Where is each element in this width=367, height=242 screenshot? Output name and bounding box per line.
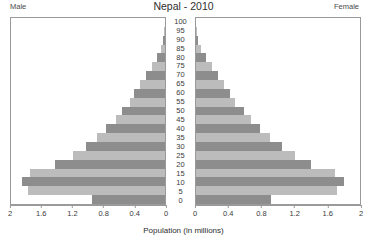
- bar-row: [11, 177, 165, 186]
- bar-row: [11, 151, 165, 160]
- bar-row: [196, 115, 360, 124]
- tick-mark: [194, 205, 195, 208]
- female-bar-rows: [196, 18, 360, 204]
- bar-row: [11, 133, 165, 142]
- bar-row: [11, 124, 165, 133]
- female-bar-age-20: [196, 160, 311, 169]
- bar-row: [196, 107, 360, 116]
- bar-row: [196, 71, 360, 80]
- female-bar-age-0: [196, 195, 271, 204]
- bar-row: [11, 18, 165, 27]
- male-x-tick-0.8: 0.8: [98, 205, 108, 218]
- female-bar-age-40: [196, 124, 260, 133]
- male-bar-age-15: [30, 169, 165, 178]
- male-axis-rule: [10, 205, 166, 206]
- bar-row: [196, 80, 360, 89]
- female-bar-age-80: [196, 53, 206, 62]
- male-plot-panel: [10, 17, 166, 205]
- female-x-tick-0.8: 0.8: [256, 205, 266, 218]
- age-tick-45: 45: [176, 115, 184, 124]
- tick-mark: [9, 205, 10, 208]
- bar-row: [11, 186, 165, 195]
- age-tick-85: 85: [176, 44, 184, 53]
- female-bar-age-90: [196, 36, 198, 45]
- age-tick-95: 95: [176, 26, 184, 35]
- population-pyramid-chart: Male Nepal - 2010 Female 051015202530354…: [0, 0, 367, 242]
- bar-row: [11, 115, 165, 124]
- tick-label: 1.6: [36, 209, 46, 218]
- age-tick-20: 20: [176, 160, 184, 169]
- female-x-axis: 00.40.81.21.62: [195, 205, 361, 223]
- age-tick-90: 90: [176, 35, 184, 44]
- bar-row: [11, 62, 165, 71]
- female-x-tick-2: 2: [359, 205, 363, 218]
- tick-mark: [103, 205, 104, 208]
- age-axis: 0510152025303540455055606570758085909510…: [166, 17, 195, 205]
- age-tick-60: 60: [176, 89, 184, 98]
- male-bar-age-45: [116, 115, 165, 124]
- bar-row: [196, 177, 360, 186]
- tick-mark: [72, 205, 73, 208]
- male-bar-age-30: [86, 142, 165, 151]
- female-bar-age-15: [196, 169, 335, 178]
- age-tick-0: 0: [178, 196, 182, 205]
- bar-row: [196, 186, 360, 195]
- bar-row: [11, 195, 165, 204]
- chart-title: Nepal - 2010: [0, 0, 367, 12]
- age-tick-25: 25: [176, 151, 184, 160]
- age-tick-5: 5: [178, 187, 182, 196]
- tick-mark: [134, 205, 135, 208]
- age-tick-15: 15: [176, 169, 184, 178]
- bar-row: [11, 80, 165, 89]
- female-axis-rule: [195, 205, 361, 206]
- male-bar-rows: [11, 18, 165, 204]
- male-bar-age-80: [157, 53, 165, 62]
- male-bar-age-90: [163, 36, 165, 45]
- bar-row: [11, 160, 165, 169]
- male-bar-age-40: [106, 124, 165, 133]
- age-tick-35: 35: [176, 133, 184, 142]
- bar-row: [196, 62, 360, 71]
- female-bar-age-30: [196, 142, 282, 151]
- male-bar-age-10: [22, 177, 165, 186]
- tick-label: 0: [164, 209, 168, 218]
- male-bar-age-5: [28, 186, 165, 195]
- tick-mark: [294, 205, 295, 208]
- male-bar-age-75: [152, 62, 165, 71]
- female-bar-age-50: [196, 107, 244, 116]
- female-x-tick-1.6: 1.6: [323, 205, 333, 218]
- male-bar-age-85: [161, 45, 165, 54]
- tick-mark: [41, 205, 42, 208]
- bar-row: [11, 36, 165, 45]
- chart-header: Male Nepal - 2010 Female: [0, 0, 367, 17]
- age-tick-75: 75: [176, 62, 184, 71]
- bar-row: [11, 45, 165, 54]
- tick-label: 0.8: [256, 209, 266, 218]
- bar-row: [11, 169, 165, 178]
- bar-row: [196, 195, 360, 204]
- female-bar-age-55: [196, 98, 235, 107]
- tick-label: 0.8: [98, 209, 108, 218]
- tick-label: 2: [8, 209, 12, 218]
- age-tick-65: 65: [176, 80, 184, 89]
- male-bar-age-50: [122, 107, 165, 116]
- bar-row: [196, 151, 360, 160]
- female-x-tick-1.2: 1.2: [289, 205, 299, 218]
- bar-row: [196, 27, 360, 36]
- tick-mark: [360, 205, 361, 208]
- age-tick-100: 100: [174, 17, 187, 26]
- male-x-tick-1.2: 1.2: [67, 205, 77, 218]
- male-x-tick-0: 0: [164, 205, 168, 218]
- male-x-tick-1.6: 1.6: [36, 205, 46, 218]
- female-bar-age-65: [196, 80, 224, 89]
- age-tick-70: 70: [176, 71, 184, 80]
- bar-row: [196, 89, 360, 98]
- bar-row: [11, 27, 165, 36]
- female-bar-age-60: [196, 89, 230, 98]
- female-bar-age-35: [196, 133, 270, 142]
- female-x-tick-0: 0: [193, 205, 197, 218]
- age-tick-30: 30: [176, 142, 184, 151]
- x-axis-title: Population (in millions): [0, 226, 367, 235]
- bar-row: [196, 160, 360, 169]
- male-bar-age-20: [55, 160, 165, 169]
